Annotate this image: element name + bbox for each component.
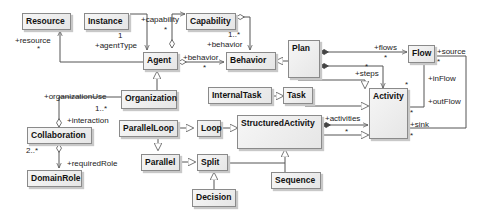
class-flow[interactable]: Flow — [408, 45, 435, 63]
class-loop[interactable]: Loop — [197, 120, 221, 137]
connectors-layer — [0, 0, 487, 223]
label-activities-mult: * — [345, 127, 348, 136]
class-sequence[interactable]: Sequence — [271, 172, 321, 189]
label-activity-mult-out: * — [410, 108, 413, 117]
class-capability[interactable]: Capability — [186, 13, 236, 30]
label-collab-mult: 2..* — [26, 146, 38, 155]
label-agent-type-mult: 1 — [118, 31, 122, 40]
class-domain-role[interactable]: DomainRole — [27, 170, 82, 187]
class-plan[interactable]: Plan — [288, 40, 320, 78]
label-capability-mult: * — [164, 25, 167, 34]
class-collaboration[interactable]: Collaboration — [27, 127, 92, 144]
label-resource-role: +resource — [15, 36, 51, 45]
label-flows-role: +flows — [374, 43, 397, 52]
label-agent-behavior-mult: * — [203, 63, 206, 72]
class-structured-activity[interactable]: StructuredActivity — [237, 115, 322, 149]
label-interaction-role: +interaction — [67, 116, 109, 125]
label-activity-mult-top: * — [405, 80, 408, 89]
class-internal-task[interactable]: InternalTask — [208, 87, 272, 104]
label-org-use-mult: 1..* — [95, 104, 107, 113]
label-org-use-role: +organizationUse — [44, 92, 106, 101]
class-task[interactable]: Task — [283, 87, 313, 104]
class-resource[interactable]: Resource — [22, 13, 71, 30]
class-organization[interactable]: Organization — [121, 90, 177, 109]
class-parallel-loop[interactable]: ParallelLoop — [119, 120, 178, 137]
class-decision[interactable]: Decision — [192, 189, 236, 207]
class-agent[interactable]: Agent — [143, 52, 178, 70]
label-source-role: +source — [437, 47, 466, 56]
class-activity[interactable]: Activity — [369, 88, 408, 139]
label-resource-mult: * — [37, 44, 40, 53]
label-inflow-role: +inFlow — [428, 74, 456, 83]
label-agent-behavior-role: +behavior — [183, 53, 218, 62]
label-activity-mult-sink: * — [410, 131, 413, 140]
label-cap-behavior-role: +behavior — [207, 40, 242, 49]
class-parallel[interactable]: Parallel — [141, 154, 180, 171]
class-split[interactable]: Split — [197, 154, 228, 171]
label-activities-role: +activities — [325, 114, 360, 123]
class-instance[interactable]: Instance — [84, 13, 129, 30]
label-flows-mult: * — [384, 53, 387, 62]
class-behavior[interactable]: Behavior — [226, 52, 276, 70]
label-source-mult: * — [437, 57, 440, 66]
label-required-role: +requiredRole — [67, 159, 117, 168]
label-agent-type-role: +agentType — [95, 41, 137, 50]
label-sink-role: +sink — [410, 120, 429, 129]
label-outflow-role: +outFlow — [428, 97, 461, 106]
label-cap-behavior-mult: 1..* — [228, 30, 240, 39]
label-capability-role: +capability — [141, 15, 179, 24]
label-steps-mult: * — [365, 62, 368, 71]
